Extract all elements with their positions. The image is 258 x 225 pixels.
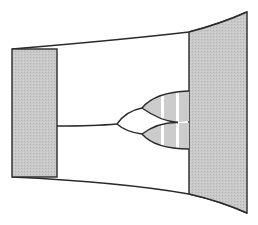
stem-line bbox=[57, 124, 117, 126]
stripe-2 bbox=[176, 91, 179, 149]
upper-branch-region bbox=[142, 91, 189, 122]
right-panel bbox=[189, 12, 247, 213]
left-panel bbox=[12, 49, 57, 177]
first-split-lower bbox=[117, 124, 142, 134]
bifurcation-diagram bbox=[0, 0, 258, 225]
lower-branch-region bbox=[142, 123, 189, 149]
first-split-upper bbox=[117, 108, 142, 124]
